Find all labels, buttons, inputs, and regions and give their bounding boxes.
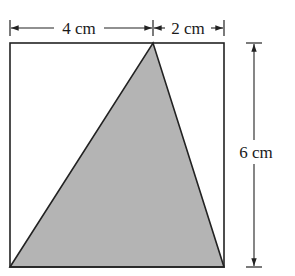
label-6cm: 6 cm (239, 143, 273, 162)
label-4cm: 4 cm (62, 19, 96, 38)
geometry-diagram: 4 cm 2 cm 6 cm (0, 0, 295, 276)
dimension-2cm: 2 cm (154, 19, 224, 38)
dimension-6cm: 6 cm (239, 43, 273, 267)
label-2cm: 2 cm (171, 19, 205, 38)
dimension-4cm: 4 cm (10, 19, 153, 38)
shaded-triangle (10, 43, 224, 267)
